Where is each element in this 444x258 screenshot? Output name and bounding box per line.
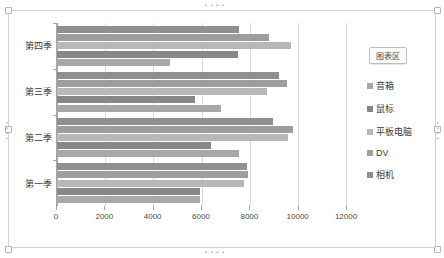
bar[interactable] <box>57 180 244 187</box>
bar-row <box>57 188 346 195</box>
bar-row <box>57 126 346 133</box>
x-axis-tick <box>201 206 202 210</box>
screenshot-root: 020004000600080001000012000 第四季第三季第二季第一季… <box>0 0 444 258</box>
gridline <box>346 23 347 206</box>
x-axis-tick <box>346 206 347 210</box>
x-axis-tick <box>153 206 154 210</box>
bar[interactable] <box>57 80 287 87</box>
bar-group <box>57 23 346 69</box>
chart-legend[interactable]: 音箱鼠标平板电脑DV相机 <box>367 79 437 191</box>
bar-row <box>57 80 346 87</box>
bar-row <box>57 180 346 187</box>
plot-wrapper: 020004000600080001000012000 <box>56 23 346 223</box>
bar[interactable] <box>57 171 248 178</box>
legend-label: DV <box>376 148 389 158</box>
legend-label: 鼠标 <box>376 102 394 115</box>
bar-row <box>57 150 346 157</box>
resize-handle-top-left[interactable] <box>5 7 12 14</box>
x-axis-tick <box>104 206 105 210</box>
bar-row <box>57 72 346 79</box>
bar[interactable] <box>57 134 288 141</box>
bar-row <box>57 134 346 141</box>
bar[interactable] <box>57 34 269 41</box>
bar-group <box>57 160 346 206</box>
legend-swatch-icon <box>367 150 373 156</box>
x-axis-tick-label: 0 <box>54 212 58 221</box>
legend-label: 音箱 <box>376 79 394 92</box>
bar-row <box>57 105 346 112</box>
selection-marker-left: • • • • <box>4 122 9 140</box>
legend-item[interactable]: DV <box>367 148 437 158</box>
bar[interactable] <box>57 142 211 149</box>
resize-handle-top-right[interactable] <box>434 7 441 14</box>
selection-marker-top: • • • • <box>205 3 225 8</box>
bar[interactable] <box>57 126 293 133</box>
bar-row <box>57 96 346 103</box>
bar[interactable] <box>57 59 170 66</box>
x-axis-tick <box>298 206 299 210</box>
category-axis[interactable]: 第四季第三季第二季第一季 <box>11 23 55 206</box>
selection-marker-right: • • • • <box>435 122 440 140</box>
bar[interactable] <box>57 26 239 33</box>
x-axis-tick-label: 2000 <box>95 212 113 221</box>
bar-row <box>57 88 346 95</box>
bar-row <box>57 163 346 170</box>
bar-group <box>57 69 346 115</box>
chart-area-tooltip: 图表区 <box>369 47 407 64</box>
bar-row <box>57 171 346 178</box>
selection-marker-bottom: • • • • <box>205 250 225 255</box>
x-axis-tick <box>249 206 250 210</box>
category-axis-label: 第四季 <box>11 23 55 69</box>
bar-row <box>57 196 346 203</box>
bar[interactable] <box>57 105 221 112</box>
legend-item[interactable]: 平板电脑 <box>367 125 437 138</box>
bar[interactable] <box>57 72 279 79</box>
legend-item[interactable]: 鼠标 <box>367 102 437 115</box>
x-axis-tick-label: 12000 <box>335 212 357 221</box>
bar-groups <box>57 23 346 206</box>
category-axis-label: 第二季 <box>11 115 55 161</box>
bar-row <box>57 34 346 41</box>
bar[interactable] <box>57 96 195 103</box>
bar-row <box>57 142 346 149</box>
bar-row <box>57 59 346 66</box>
legend-item[interactable]: 相机 <box>367 168 437 181</box>
bar[interactable] <box>57 188 200 195</box>
bar[interactable] <box>57 150 239 157</box>
legend-swatch-icon <box>367 129 373 135</box>
x-axis-tick-label: 4000 <box>144 212 162 221</box>
bar[interactable] <box>57 51 238 58</box>
bar-row <box>57 51 346 58</box>
bar[interactable] <box>57 42 291 49</box>
bar-row <box>57 42 346 49</box>
legend-label: 相机 <box>376 168 394 181</box>
x-axis-tick <box>56 206 57 210</box>
bar-group <box>57 115 346 161</box>
legend-swatch-icon <box>367 172 373 178</box>
value-axis[interactable]: 020004000600080001000012000 <box>56 206 346 228</box>
category-axis-label: 第三季 <box>11 69 55 115</box>
x-axis-tick-label: 6000 <box>192 212 210 221</box>
legend-label: 平板电脑 <box>376 125 412 138</box>
bar[interactable] <box>57 118 273 125</box>
chart-object-frame[interactable]: 020004000600080001000012000 第四季第三季第二季第一季… <box>8 10 436 248</box>
x-axis-tick-label: 10000 <box>287 212 309 221</box>
bar[interactable] <box>57 88 267 95</box>
legend-swatch-icon <box>367 106 373 112</box>
plot-area[interactable] <box>56 23 346 206</box>
bar-row <box>57 118 346 125</box>
category-axis-label: 第一季 <box>11 160 55 206</box>
bar[interactable] <box>57 196 200 203</box>
legend-swatch-icon <box>367 83 373 89</box>
resize-handle-bottom-left[interactable] <box>5 246 12 253</box>
bar[interactable] <box>57 163 247 170</box>
resize-handle-bottom-right[interactable] <box>434 246 441 253</box>
x-axis-tick-label: 8000 <box>240 212 258 221</box>
legend-item[interactable]: 音箱 <box>367 79 437 92</box>
bar-row <box>57 26 346 33</box>
